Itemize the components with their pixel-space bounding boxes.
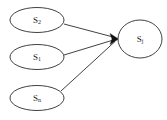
arrowhead-into-sj <box>110 34 119 45</box>
node-s2[interactable]: S2 <box>10 8 64 33</box>
node-sj[interactable]: Sj <box>118 20 162 58</box>
edge-sn-to-sj <box>61 42 115 92</box>
node-sn[interactable]: Sn <box>10 86 64 111</box>
filled-arrowhead-icon <box>110 34 119 45</box>
node-s2-subscript: 2 <box>38 19 41 25</box>
node-s1[interactable]: S1 <box>10 45 64 70</box>
edges-group <box>61 24 115 91</box>
node-sj-subscript: j <box>141 38 144 44</box>
edge-s1-to-sj <box>64 40 115 56</box>
graph-svg: S2 S1 Sn Sj <box>0 0 167 120</box>
node-sn-subscript: n <box>38 97 41 103</box>
diagram-canvas: S2 S1 Sn Sj <box>0 0 167 120</box>
node-s1-subscript: 1 <box>38 56 41 62</box>
edge-s2-to-sj <box>64 24 115 38</box>
